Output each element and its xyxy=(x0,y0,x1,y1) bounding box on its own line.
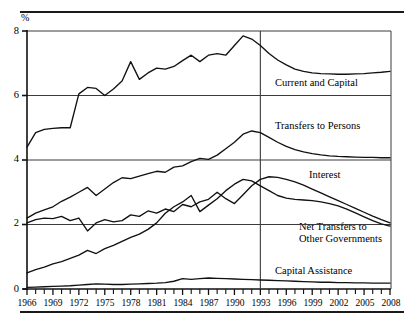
series-line-net-transfers-to-other-governments xyxy=(27,179,390,273)
chart-figure: % 8 6 4 2 0 1966 1969 1972 1975 1978 198… xyxy=(0,0,411,322)
series-line-capital-assistance xyxy=(27,278,390,287)
series-line-interest xyxy=(27,177,390,231)
series-line-current-and-capital xyxy=(27,36,390,147)
chart-plot-area xyxy=(0,0,411,322)
